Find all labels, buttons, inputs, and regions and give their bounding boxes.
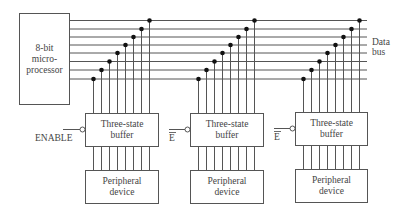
- inversion-bubble-icon: [185, 127, 190, 132]
- microprocessor-label-line3: processor: [26, 65, 63, 75]
- peripheral-2-label-line1: Peripheral: [207, 176, 246, 186]
- peripheral-unit-3: Three-state buffer Peripheral device E: [274, 113, 368, 203]
- junction-dot-icon: [147, 18, 152, 23]
- junction-dot-icon: [301, 77, 306, 82]
- data-bus-label-line1: Data: [372, 37, 391, 47]
- microprocessor-label-line1: 8-bit: [36, 43, 54, 53]
- bus-drop-connections: [91, 18, 362, 170]
- junction-dot-icon: [317, 59, 322, 64]
- junction-dot-icon: [204, 68, 209, 73]
- peripheral-unit-1: Three-state buffer Peripheral device ENA…: [35, 114, 159, 204]
- buffer-3-label-line2: buffer: [320, 129, 344, 139]
- peripheral-2-label-line2: device: [215, 187, 240, 197]
- enable-label-2: E: [169, 133, 175, 143]
- junction-dot-icon: [131, 35, 136, 40]
- peripheral-3-label-line1: Peripheral: [312, 175, 351, 185]
- microprocessor-label-line2: micro-: [32, 54, 57, 64]
- junction-dot-icon: [357, 18, 362, 23]
- peripheral-1-label-line2: device: [110, 187, 135, 197]
- data-bus-label-line2: bus: [372, 47, 386, 57]
- junction-dot-icon: [196, 77, 201, 82]
- junction-dot-icon: [212, 59, 217, 64]
- junction-dot-icon: [236, 35, 241, 40]
- junction-dot-icon: [252, 18, 257, 23]
- peripheral-1-label-line1: Peripheral: [102, 176, 141, 186]
- inversion-bubble-icon: [80, 127, 85, 132]
- data-bus-diagram: 8-bit micro- processor Data bus Three-st…: [0, 0, 408, 212]
- buffer-3-label-line1: Three-state: [310, 118, 353, 128]
- buffer-1-label-line1: Three-state: [101, 119, 144, 129]
- junction-dot-icon: [91, 77, 96, 82]
- microprocessor-block: 8-bit micro- processor: [20, 14, 70, 105]
- enable-label-3: E: [274, 132, 280, 142]
- data-bus-lines: [70, 21, 368, 80]
- junction-dot-icon: [244, 27, 249, 32]
- data-bus-label: Data bus: [372, 37, 391, 57]
- junction-dot-icon: [325, 51, 330, 56]
- enable-label-1: ENABLE: [35, 133, 73, 143]
- buffer-2-label-line1: Three-state: [206, 119, 249, 129]
- junction-dot-icon: [123, 43, 128, 48]
- junction-dot-icon: [341, 35, 346, 40]
- peripheral-unit-2: Three-state buffer Peripheral device E: [169, 114, 264, 204]
- junction-dot-icon: [333, 43, 338, 48]
- inversion-bubble-icon: [290, 126, 295, 131]
- junction-dot-icon: [99, 68, 104, 73]
- junction-dot-icon: [115, 51, 120, 56]
- junction-dot-icon: [349, 27, 354, 32]
- buffer-2-label-line2: buffer: [215, 130, 239, 140]
- buffer-1-label-line2: buffer: [110, 130, 134, 140]
- junction-dot-icon: [228, 43, 233, 48]
- junction-dot-icon: [139, 27, 144, 32]
- junction-dot-icon: [107, 59, 112, 64]
- peripheral-3-label-line2: device: [319, 186, 344, 196]
- junction-dot-icon: [220, 51, 225, 56]
- junction-dot-icon: [309, 68, 314, 73]
